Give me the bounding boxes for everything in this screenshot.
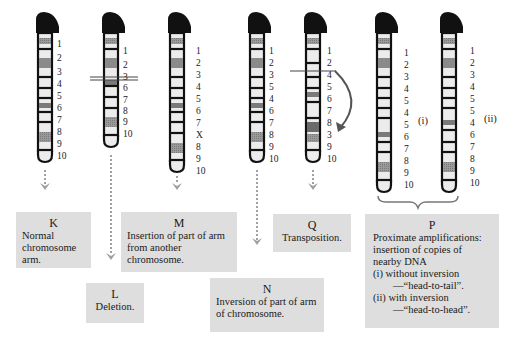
band-label: 9: [470, 167, 475, 177]
band-label: 4: [404, 109, 409, 119]
box-title: Q: [279, 218, 345, 232]
band-label: 2: [196, 59, 201, 69]
band-label: 8: [196, 143, 201, 153]
box-text: Transposition.: [282, 232, 342, 243]
chromosome-m: [168, 12, 191, 190]
box-line: insertion of copies of: [373, 244, 491, 256]
side-label-p-ii: (ii): [484, 113, 497, 124]
band-label: 9: [327, 143, 332, 153]
band-label: 1: [123, 47, 128, 57]
box-q: Q Transposition.: [273, 214, 351, 252]
band-label: 8: [404, 157, 409, 167]
band-label: 10: [57, 152, 67, 162]
centromere-cap-icon: [168, 12, 191, 33]
band-label: 5: [57, 92, 62, 102]
band-label: 8: [269, 131, 274, 141]
band-label: 4: [57, 80, 62, 90]
band-label: 5: [196, 95, 201, 105]
band-label: 3: [269, 71, 274, 81]
band-label: 3: [196, 71, 201, 81]
band-label: 7: [327, 107, 332, 117]
box-line: Proximate amplifications:: [373, 232, 491, 244]
band-label: 6: [470, 131, 475, 141]
band-label: 2: [57, 54, 62, 64]
box-n: N Inversion of part of arm of chromosome…: [210, 278, 324, 332]
box-p: P Proximate amplifications: insertion of…: [365, 214, 499, 328]
band-label: 1: [196, 47, 201, 57]
chromosome-p-i: [375, 12, 398, 192]
centromere-cap-icon: [375, 12, 398, 33]
band-label: 4: [327, 71, 332, 81]
band-label: 3: [123, 73, 128, 83]
chromosome-p-ii: [440, 12, 463, 192]
band-label: 5: [327, 83, 332, 93]
band-label: 9: [196, 155, 201, 165]
centromere-cap-icon: [102, 12, 125, 33]
band-label: 2: [327, 59, 332, 69]
box-m: M Insertion of part of arm from another …: [121, 212, 237, 272]
box-line: —“head-to-head”.: [373, 304, 491, 316]
band-label: 8: [470, 155, 475, 165]
centromere-cap-icon: [36, 12, 59, 33]
band-label: 10: [470, 179, 480, 189]
box-title: N: [216, 282, 318, 296]
band-label: 4: [470, 119, 475, 129]
arrow-head-icon: [172, 183, 182, 190]
band-label: 1: [57, 40, 62, 50]
box-l: L Deletion.: [86, 283, 144, 323]
band-label: 1: [470, 47, 475, 57]
band-label: 9: [123, 118, 128, 128]
band-label: 10: [404, 181, 414, 191]
box-line: (i) without inversion: [373, 268, 491, 280]
band-label: X: [196, 131, 203, 141]
band-label: 7: [57, 116, 62, 126]
chromosome-n: [248, 12, 271, 245]
band-label: 3: [470, 71, 475, 81]
arrow-head-icon: [40, 183, 50, 190]
band-label: 10: [123, 130, 133, 140]
centromere-cap-icon: [248, 12, 271, 33]
arrow-head-icon: [308, 183, 318, 190]
band-label: 7: [404, 145, 409, 155]
transposition-curve-arrow: [335, 71, 351, 128]
band-label: 4: [404, 85, 409, 95]
chromosome-k: [36, 12, 59, 190]
band-label: 7: [470, 143, 475, 153]
band-label: 4: [269, 95, 274, 105]
band-label: 7: [123, 96, 128, 106]
band-label: 6: [57, 104, 62, 114]
side-label-p-i: (i): [418, 115, 428, 126]
centromere-cap-icon: [304, 12, 327, 33]
band-label: 2: [470, 59, 475, 69]
band-label: 7: [196, 119, 201, 129]
band-label: 8: [57, 128, 62, 138]
band-label: 6: [404, 133, 409, 143]
band-label: 1: [327, 47, 332, 57]
box-text: Inversion of part of arm of chromosome.: [216, 296, 316, 319]
band-label: 6: [196, 107, 201, 117]
centromere-cap-icon: [440, 12, 463, 33]
box-title: P: [373, 218, 491, 232]
band-label: 5: [404, 121, 409, 131]
chromosome-q: [290, 12, 351, 190]
band-label: 10: [269, 155, 279, 165]
band-label: 2: [404, 61, 409, 71]
box-text: Normal chromosome arm.: [22, 230, 76, 265]
box-line: (ii) with inversion: [373, 292, 491, 304]
box-text: Deletion.: [96, 301, 135, 312]
box-title: L: [92, 287, 138, 301]
band-label: 9: [57, 140, 62, 150]
band-label: 7: [269, 119, 274, 129]
band-label: 8: [123, 107, 128, 117]
band-label: 9: [269, 143, 274, 153]
box-title: K: [22, 216, 85, 230]
band-label: 6: [269, 107, 274, 117]
box-line: —“head-to-tail”.: [373, 280, 491, 292]
band-label: 6: [327, 95, 332, 105]
band-label: 4: [470, 83, 475, 93]
band-label: 5: [470, 107, 475, 117]
band-label: 4: [196, 83, 201, 93]
band-label: 6: [123, 84, 128, 94]
band-label: 3: [327, 131, 332, 141]
band-label: 3: [404, 73, 409, 83]
